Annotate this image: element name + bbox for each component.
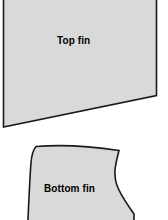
top-fin-shape — [4, 0, 157, 127]
bottom-fin-label: Bottom fin — [44, 183, 95, 194]
fin-template-diagram: Top fin Bottom fin — [0, 0, 168, 220]
top-fin-label: Top fin — [57, 35, 90, 46]
